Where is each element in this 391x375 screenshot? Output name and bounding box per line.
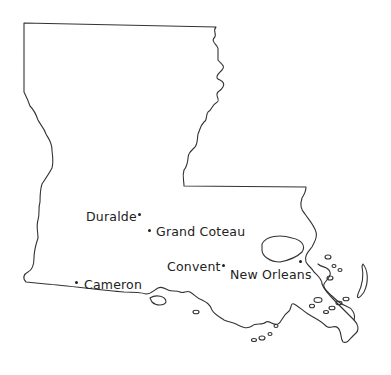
city-label-grand-coteau: Grand Coteau [156, 226, 245, 239]
city-label-duralde: Duralde [86, 211, 137, 224]
city-label-convent: Convent [167, 261, 221, 274]
city-dot-convent [222, 264, 225, 267]
chandeleur-islands [357, 264, 367, 298]
city-dot-grand-coteau [148, 229, 151, 232]
city-dot-new-orleans [299, 260, 302, 263]
white-lake [150, 296, 166, 305]
city-label-new-orleans: New Orleans [230, 269, 312, 282]
city-label-cameron: Cameron [84, 279, 142, 292]
state-outline [24, 23, 358, 342]
city-dot-duralde [138, 213, 141, 216]
city-dot-cameron [75, 281, 78, 284]
louisiana-map [0, 0, 391, 375]
lake-pontchartrain [262, 236, 304, 262]
